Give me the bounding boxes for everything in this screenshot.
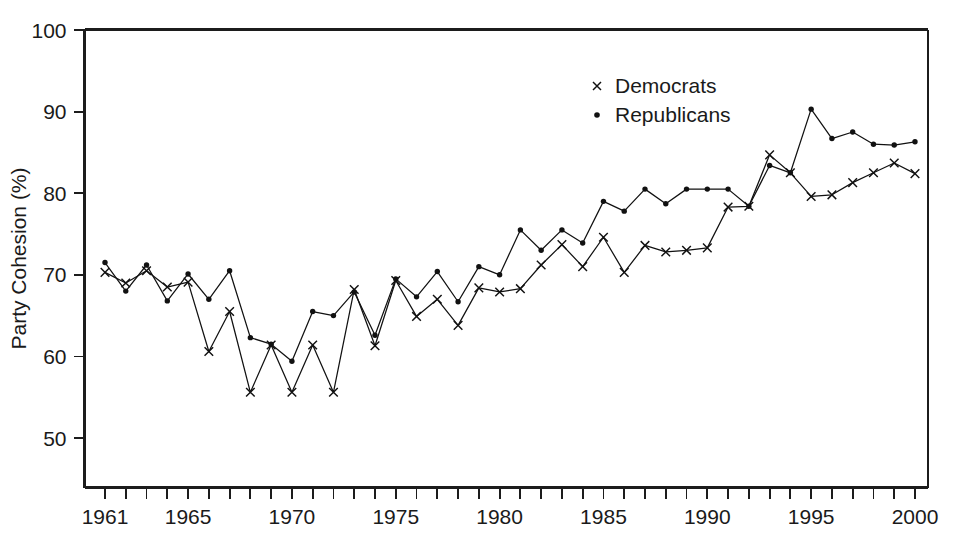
legend-label-democrats: Democrats [615,74,717,97]
data-point-republicans-1998 [871,142,876,147]
data-point-republicans-1995 [808,106,813,111]
y-tick-label-80: 80 [43,182,66,205]
series-democrats [101,151,920,397]
data-point-republicans-1988 [663,201,668,206]
legend-marker-cross-icon [593,82,601,90]
y-tick-label-100: 100 [31,19,66,42]
data-point-republicans-1991 [725,186,730,191]
data-point-democrats-1982 [537,261,546,270]
y-axis-title-text: Party Cohesion (%) [7,167,30,349]
data-point-republicans-1986 [622,208,627,213]
legend-item-democrats: Democrats [593,74,717,97]
data-point-democrats-1985 [599,233,608,242]
data-point-republicans-1992 [746,204,751,209]
data-point-republicans-1989 [684,186,689,191]
chart-legend: DemocratsRepublicans [593,74,731,126]
party-cohesion-line-chart: 5060708090100 19611965197019751980198519… [0,0,957,541]
data-point-republicans-1984 [580,240,585,245]
data-point-democrats-1974 [371,341,380,350]
data-point-republicans-1968 [248,335,253,340]
data-point-democrats-1993 [765,151,774,160]
data-point-democrats-1999 [890,159,899,168]
data-point-republicans-1965 [185,271,190,276]
legend-item-republicans: Republicans [594,103,730,126]
data-point-democrats-1964 [163,283,172,292]
x-tick-label-1995: 1995 [788,505,835,528]
data-point-republicans-1964 [165,298,170,303]
x-tick-label-1970: 1970 [269,505,316,528]
data-point-republicans-1962 [123,288,128,293]
plot-frame [85,30,929,488]
data-point-democrats-1966 [205,347,214,356]
data-point-republicans-1971 [310,309,315,314]
y-axis-tick-labels: 5060708090100 [31,19,66,450]
data-point-republicans-1976 [414,294,419,299]
data-point-democrats-1968 [246,388,255,397]
data-point-republicans-1990 [705,186,710,191]
data-point-democrats-1997 [848,178,857,187]
data-point-democrats-1961 [101,268,110,277]
data-point-democrats-1984 [578,262,587,271]
x-tick-label-1975: 1975 [372,505,419,528]
data-point-republicans-1970 [289,359,294,364]
data-series [101,106,920,396]
data-point-republicans-2000 [912,139,917,144]
x-axis-tick-labels: 196119651970197519801985199019952000 [82,505,939,528]
y-tick-label-90: 90 [43,100,66,123]
data-point-democrats-1970 [288,388,297,397]
y-axis-title: Party Cohesion (%) [7,167,30,349]
series-line-republicans [105,109,915,361]
data-point-republicans-1987 [642,186,647,191]
data-point-democrats-1967 [225,307,234,316]
data-point-republicans-1974 [372,332,377,337]
y-tick-label-50: 50 [43,427,66,450]
y-tick-label-60: 60 [43,345,66,368]
data-point-republicans-1969 [268,341,273,346]
data-point-republicans-1985 [601,199,606,204]
chart-container: 5060708090100 19611965197019751980198519… [0,0,957,541]
data-point-democrats-1987 [641,241,650,250]
x-tick-label-1980: 1980 [476,505,523,528]
data-point-republicans-1978 [455,299,460,304]
data-point-republicans-1975 [393,276,398,281]
data-point-republicans-1963 [144,262,149,267]
series-republicans [102,106,917,364]
data-point-democrats-1965 [184,278,193,287]
data-point-republicans-1993 [767,163,772,168]
x-tick-label-1965: 1965 [165,505,212,528]
data-point-republicans-1980 [497,272,502,277]
x-tick-label-1990: 1990 [684,505,731,528]
data-point-democrats-1971 [308,341,317,350]
data-point-republicans-1981 [518,227,523,232]
data-point-republicans-1982 [538,248,543,253]
data-point-republicans-1973 [352,289,357,294]
y-tick-label-70: 70 [43,263,66,286]
data-point-democrats-1977 [433,295,442,304]
data-point-republicans-1961 [102,260,107,265]
data-point-republicans-1977 [435,269,440,274]
data-point-democrats-1978 [454,321,463,330]
data-point-democrats-2000 [911,169,920,178]
axes [85,30,929,488]
data-point-democrats-1976 [412,312,421,321]
x-tick-label-1961: 1961 [82,505,129,528]
data-point-republicans-1994 [788,170,793,175]
axis-ticks [74,30,916,499]
data-point-republicans-1997 [850,129,855,134]
data-point-republicans-1983 [559,227,564,232]
data-point-democrats-1998 [869,169,878,178]
data-point-republicans-1999 [892,142,897,147]
data-point-republicans-1972 [331,313,336,318]
x-tick-label-2000: 2000 [892,505,939,528]
data-point-republicans-1966 [206,297,211,302]
data-point-democrats-1983 [558,240,567,249]
data-point-republicans-1979 [476,264,481,269]
data-point-republicans-1967 [227,268,232,273]
legend-label-republicans: Republicans [615,103,731,126]
x-tick-label-1985: 1985 [580,505,627,528]
data-point-republicans-1996 [829,136,834,141]
data-point-democrats-1986 [620,268,629,277]
series-line-democrats [105,155,915,392]
legend-marker-dot-icon [594,112,600,118]
